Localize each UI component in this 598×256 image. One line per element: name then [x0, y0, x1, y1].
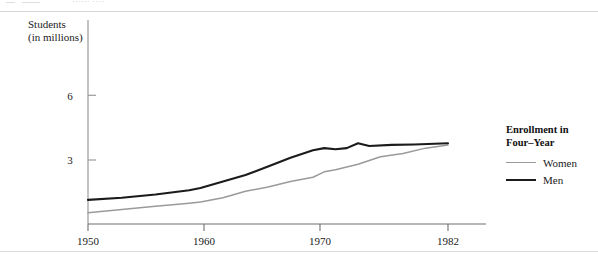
- bottom-divider: [0, 251, 598, 252]
- series-line-men: [88, 143, 448, 200]
- legend-swatch-men-icon: [506, 179, 536, 181]
- x-tick-label-1960: 1960: [193, 235, 216, 247]
- legend-entry-women: Women: [506, 154, 598, 171]
- legend-label-women: Women: [543, 157, 577, 169]
- x-tick-label-1950: 1950: [77, 235, 100, 247]
- series-group: [88, 143, 448, 213]
- x-tick-label-1970: 1970: [309, 235, 332, 247]
- legend-title-line2: Four–Year: [506, 136, 598, 149]
- chart-legend: Enrollment in Four–Year Women Men: [506, 123, 598, 188]
- legend-label-men: Men: [543, 174, 563, 186]
- series-line-women: [88, 145, 448, 213]
- y-tick-label-6: 6: [67, 90, 73, 102]
- legend-title: Enrollment in Four–Year: [506, 123, 598, 149]
- legend-entries: Women Men: [506, 154, 598, 188]
- legend-title-line1: Enrollment in: [506, 124, 569, 135]
- y-tick-label-3: 3: [67, 154, 73, 166]
- x-tick-label-1982: 1982: [437, 235, 459, 247]
- chart-figure: — —— ······ ···· Students (in millions) …: [0, 0, 598, 256]
- legend-entry-men: Men: [506, 171, 598, 188]
- legend-swatch-women-icon: [506, 162, 536, 163]
